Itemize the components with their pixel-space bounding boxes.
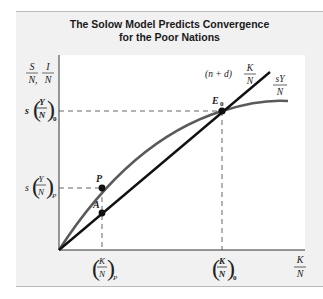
- label-p: P: [96, 173, 103, 184]
- solow-chart: P A E 0 S N, I N s ( Y N ) 0 s ( Y N ) P…: [0, 0, 323, 299]
- svg-text:Y: Y: [38, 174, 44, 184]
- plot-area: [59, 55, 305, 250]
- svg-text:K: K: [98, 256, 106, 266]
- point-p: [99, 185, 106, 192]
- svg-text:(n + d): (n + d): [205, 69, 232, 80]
- svg-text:s: s: [24, 105, 29, 116]
- svg-text:0: 0: [53, 115, 57, 123]
- svg-text:K: K: [218, 256, 226, 266]
- yaxis-s: S: [30, 61, 35, 72]
- ytick-steady: s ( Y N ) 0: [24, 96, 57, 123]
- svg-text:N: N: [218, 269, 226, 279]
- yaxis-n2: N: [44, 74, 53, 85]
- svg-text:N: N: [276, 87, 284, 97]
- yaxis-i: I: [45, 61, 50, 72]
- svg-text:K: K: [296, 254, 305, 265]
- xaxis-title: K N: [294, 254, 306, 279]
- svg-text:N: N: [98, 269, 106, 279]
- yaxis-n1: N,: [27, 74, 37, 85]
- label-e-sub: 0: [220, 100, 224, 108]
- svg-text:N: N: [37, 187, 45, 197]
- svg-text:0: 0: [233, 274, 237, 282]
- point-a: [99, 210, 106, 217]
- svg-text:N: N: [38, 110, 46, 120]
- label-e: E: [211, 95, 219, 106]
- xtick-steady: ( K N ) 0: [212, 255, 237, 282]
- point-e0: [218, 107, 225, 114]
- svg-text:P: P: [112, 274, 118, 282]
- svg-text:P: P: [51, 192, 57, 200]
- svg-text:Y: Y: [39, 97, 46, 107]
- label-a: A: [92, 199, 100, 210]
- xtick-poor: ( K N ) P: [92, 255, 118, 282]
- svg-text:K: K: [246, 63, 254, 73]
- svg-text:N: N: [296, 268, 305, 279]
- svg-text:N: N: [246, 76, 254, 86]
- ytick-poor: s ( Y N ) P: [25, 173, 57, 200]
- svg-text:s: s: [25, 182, 29, 193]
